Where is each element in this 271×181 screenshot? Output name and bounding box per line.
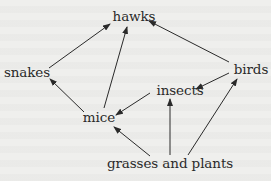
edge-snakes-to-hawks [49, 24, 110, 68]
node-birds: birds [234, 63, 268, 77]
edges-layer [0, 0, 271, 181]
node-snakes: snakes [4, 66, 50, 80]
node-mice: mice [83, 111, 115, 125]
edge-mice-to-hawks [104, 27, 127, 108]
node-grasses-and-plants: grasses and plants [107, 157, 233, 171]
node-hawks: hawks [113, 10, 156, 24]
edge-birds-to-hawks [149, 21, 229, 62]
edge-insects-to-mice [116, 93, 150, 115]
edge-plants-to-mice [114, 127, 150, 156]
node-insects: insects [156, 84, 203, 98]
edge-mice-to-snakes [50, 79, 84, 112]
